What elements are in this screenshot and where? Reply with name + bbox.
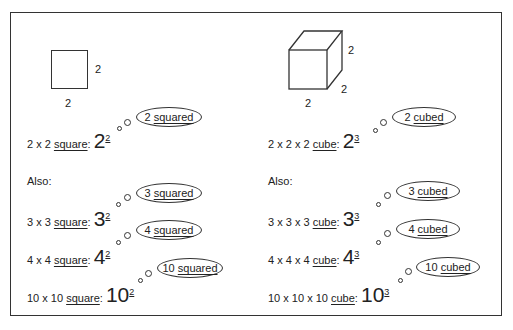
right-row-2: 4 x 4 x 4 cube: 43 [268,245,359,269]
cube-depth-label: 2 [341,83,347,95]
right-row-3: 10 x 10 x 10 cube: 103 [268,283,389,307]
bubble-2-squared: 2 squared [136,107,202,127]
left-row-1: 3 x 3 square: 32 [27,207,110,231]
thought-dot-small [117,126,122,131]
thought-dot-small [373,128,378,133]
right-row-0: 2 x 2 x 2 cube: 23 [268,129,359,153]
thought-dot-large [124,232,131,239]
thought-dot-small [398,278,403,283]
thought-dot-small [376,202,381,207]
thought-dot-large [384,192,391,199]
bubble-4-squared: 4 squared [136,220,202,240]
bubble-10-cubed: 10 cubed [416,257,480,277]
thought-dot-large [124,119,131,126]
thought-dot-large [145,270,152,277]
cube-height-label: 2 [348,44,354,56]
right-row-1: 3 x 3 x 3 cube: 33 [268,207,359,231]
left-row-0: 2 x 2 square: 22 [27,129,110,153]
cube-bottom-label: 2 [305,97,311,109]
thought-dot-small [116,202,121,207]
square-shape [51,50,88,89]
thought-dot-large [384,230,391,237]
bubble-2-cubed: 2 cubed [392,107,456,127]
left-row-3: 10 x 10 square: 102 [27,283,134,307]
thought-dot-small [376,240,381,245]
right-also-label: Also: [268,175,292,187]
bubble-3-cubed: 3 cubed [396,181,460,201]
thought-dot-small [116,240,121,245]
square-side-label: 2 [95,63,101,75]
bubble-3-squared: 3 squared [136,183,202,203]
left-row-2: 4 x 4 square: 42 [27,245,110,269]
square-bottom-label: 2 [65,97,71,109]
thought-dot-large [124,194,131,201]
bubble-4-cubed: 4 cubed [396,219,460,239]
left-also-label: Also: [27,175,51,187]
thought-dot-large [405,268,412,275]
thought-dot-small [138,278,143,283]
thought-dot-large [380,119,387,126]
cube-shape [286,28,346,92]
bubble-10-squared: 10 squared [157,258,223,278]
